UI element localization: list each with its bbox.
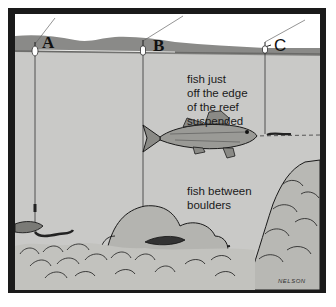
sinker-a (34, 204, 37, 212)
fish-left-bottom (15, 222, 43, 233)
boulders (107, 206, 228, 254)
bait-a (35, 230, 73, 236)
artist-signature: NELSON (278, 278, 306, 284)
reef (245, 160, 320, 290)
bait-c (267, 134, 291, 135)
underwater-scene: A B C fish just off the edge of the reef… (15, 14, 320, 290)
caption-boulders: fish between boulders (187, 184, 252, 212)
marker-a: A (42, 34, 54, 51)
marker-c: C (274, 37, 286, 54)
lake-bottom (15, 243, 255, 290)
scene-drawing (15, 14, 320, 290)
marker-b: B (153, 37, 164, 54)
caption-suspended: fish just off the edge of the reef suspe… (187, 72, 248, 128)
